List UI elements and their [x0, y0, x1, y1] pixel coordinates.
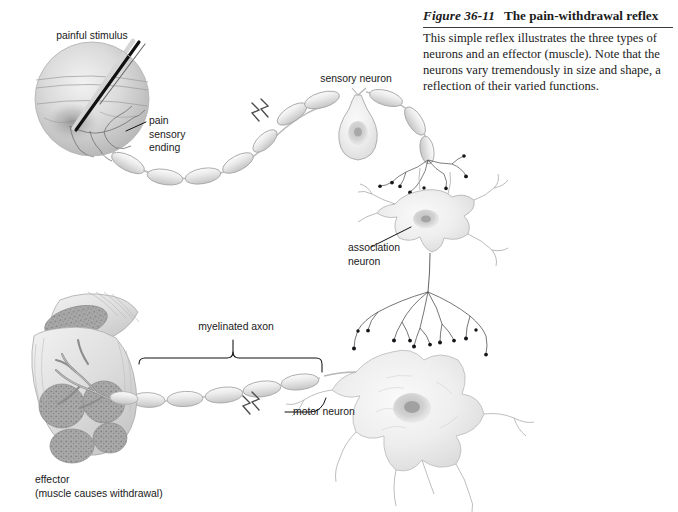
figure-root: Figure 36-11The pain-withdrawal reflex T… [0, 0, 678, 512]
motor-neuron [286, 350, 534, 512]
bracket-myelinated-axon-left [139, 340, 233, 364]
label-association-neuron: association neuron [348, 241, 400, 268]
association-axon-arbor [354, 292, 487, 354]
effector-muscle [32, 292, 139, 463]
label-effector: effector (muscle causes withdrawal) [35, 473, 163, 500]
synaptic-boutons-association [352, 328, 488, 356]
figure-caption: Figure 36-11The pain-withdrawal reflex T… [423, 8, 673, 95]
sensory-synaptic-terminals [380, 156, 466, 192]
sensory-axon-terminal-branch [366, 86, 468, 194]
label-pain-sensory-ending: pain sensory ending [149, 114, 185, 155]
label-painful-stimulus: painful stimulus [37, 29, 147, 43]
label-myelinated-axon: myelinated axon [181, 320, 291, 334]
figure-number: Figure 36-11 [423, 8, 495, 23]
figure-title: The pain-withdrawal reflex [504, 8, 658, 23]
figure-caption-body: This simple reflex illustrates the three… [423, 31, 673, 95]
myelin-segments-motor [131, 372, 320, 408]
bracket-myelinated-axon-right [233, 352, 322, 372]
axon-break-symbol-sensory [252, 99, 268, 121]
skin-cross-section [35, 41, 149, 161]
motor-axon [112, 372, 320, 414]
label-sensory-neuron: sensory neuron [296, 72, 416, 86]
synaptic-boutons-sensory [378, 154, 468, 194]
figure-caption-title: Figure 36-11The pain-withdrawal reflex [423, 8, 673, 28]
label-motor-neuron: motor neuron [293, 405, 355, 419]
